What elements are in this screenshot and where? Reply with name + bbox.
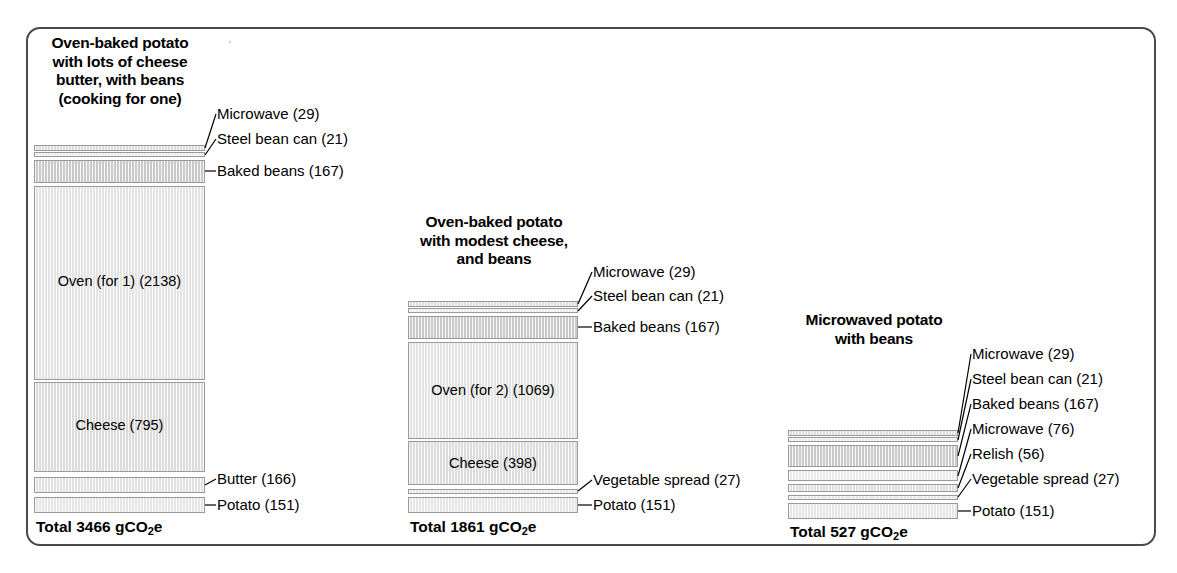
callout-steel-bean-can: Steel bean can (21) xyxy=(972,371,1103,387)
panel-2-total-subscript: 2 xyxy=(522,525,528,537)
panel-2-total-text: Total 1861 gCO xyxy=(410,518,522,535)
callout-microwave: Microwave (29) xyxy=(217,106,320,122)
callout-steel-bean-can: Steel bean can (21) xyxy=(593,288,724,304)
panel-3-title: Microwaved potato with beans xyxy=(786,311,962,348)
segment-baked-beans xyxy=(34,160,205,183)
segment-potato xyxy=(788,503,958,519)
segment-cheese: Cheese (398) xyxy=(408,441,578,485)
callout-potato: Potato (151) xyxy=(217,497,300,513)
panel-1-total-subscript: 2 xyxy=(148,525,154,537)
panel-2-title: Oven-baked potato with modest cheese, an… xyxy=(405,213,583,269)
panel-3-total-text: Total 527 gCO xyxy=(790,523,893,540)
callout-microwave-oven: Microwave (29) xyxy=(972,346,1075,362)
callout-butter: Butter (166) xyxy=(217,471,296,487)
chart-figure: Oven-baked potato with lots of cheese bu… xyxy=(0,0,1177,573)
callout-potato: Potato (151) xyxy=(972,503,1055,519)
segment-microwave xyxy=(408,301,578,307)
callout-baked-beans: Baked beans (167) xyxy=(972,396,1099,412)
segment-butter xyxy=(34,477,205,493)
segment-cheese-label: Cheese (398) xyxy=(409,455,577,471)
segment-vegetable-spread xyxy=(408,489,578,494)
callout-microwave-76: Microwave (76) xyxy=(972,421,1075,437)
segment-steel-bean-can xyxy=(34,152,205,157)
segment-potato xyxy=(34,497,205,513)
callout-baked-beans: Baked beans (167) xyxy=(217,163,344,179)
panel-1-total-suffix: e xyxy=(154,518,163,535)
callout-vegetable-spread: Vegetable spread (27) xyxy=(972,471,1120,487)
segment-microwave xyxy=(34,145,205,151)
segment-baked-beans xyxy=(408,316,578,339)
segment-vegetable-spread xyxy=(788,495,958,500)
segment-steel-bean-can xyxy=(408,308,578,313)
callout-relish: Relish (56) xyxy=(972,446,1045,462)
segment-oven-for-1: Oven (for 1) (2138) xyxy=(34,186,205,380)
panel-3-total-suffix: e xyxy=(899,523,908,540)
segment-steel-bean-can xyxy=(788,437,958,442)
segment-relish xyxy=(788,484,958,492)
callout-steel-bean-can: Steel bean can (21) xyxy=(217,131,348,147)
segment-oven-for-2: Oven (for 2) (1069) xyxy=(408,342,578,439)
segment-baked-beans xyxy=(788,445,958,467)
callout-microwave: Microwave (29) xyxy=(593,264,696,280)
segment-oven-for-2-label: Oven (for 2) (1069) xyxy=(409,382,577,398)
panel-3-total-subscript: 2 xyxy=(893,530,899,542)
segment-microwave-oven xyxy=(788,430,958,436)
image-speck xyxy=(229,41,231,43)
panel-2-total: Total 1861 gCO2e xyxy=(410,518,536,536)
callout-baked-beans: Baked beans (167) xyxy=(593,319,720,335)
panel-1-total: Total 3466 gCO2e xyxy=(36,518,162,536)
callout-potato: Potato (151) xyxy=(593,497,676,513)
callout-vegetable-spread: Vegetable spread (27) xyxy=(593,472,741,488)
panel-1-total-text: Total 3466 gCO xyxy=(36,518,148,535)
panel-2-total-suffix: e xyxy=(528,518,537,535)
segment-cheese-label: Cheese (795) xyxy=(35,417,204,433)
segment-oven-for-1-label: Oven (for 1) (2138) xyxy=(35,273,204,289)
segment-cheese: Cheese (795) xyxy=(34,382,205,472)
segment-potato xyxy=(408,497,578,513)
panel-3-total: Total 527 gCO2e xyxy=(790,523,908,541)
panel-1-title: Oven-baked potato with lots of cheese bu… xyxy=(34,34,206,108)
segment-microwave-76 xyxy=(788,470,958,481)
